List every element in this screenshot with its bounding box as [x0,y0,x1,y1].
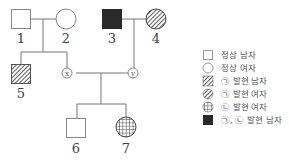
legend-label-trait-ab-male: ㉠, ㉡ 발현 남자 [221,115,282,125]
label-2: 2 [62,31,70,46]
individual-3-trait-ab-male [102,9,122,29]
legend-label-normal-female: 정상 여자 [221,63,256,73]
legend-circle-empty-icon [203,63,213,73]
label-1: 1 [17,31,25,46]
legend-square-hatched-icon [203,76,213,86]
legend-label-trait-a-female: ㉠ 발현 여자 [221,89,267,99]
label-4: 4 [152,31,160,46]
label-6: 6 [72,141,80,156]
label-x: x [65,70,69,78]
pedigree-lines [21,19,146,118]
pedigree-diagram: 1 2 3 4 5 x y 6 7 정상 남자 정상 여자 ㉠ 발현 남자 ㉠ … [0,0,289,160]
label-7: 7 [122,141,130,156]
legend-square-filled-icon [203,115,213,125]
individual-6-normal-male [67,119,86,138]
individual-7-trait-b-female [116,117,136,137]
individual-2-normal-female [56,9,76,29]
label-3: 3 [108,31,116,46]
individual-5-trait-a-male [12,65,31,84]
individual-4-trait-a-female [146,9,166,29]
legend: 정상 남자 정상 여자 ㉠ 발현 남자 ㉠ 발현 여자 ㉡ 발현 여자 ㉠, ㉡… [203,50,282,125]
legend-circle-hatched-icon [203,89,213,99]
individual-1-normal-male [12,10,31,29]
legend-label-normal-male: 정상 남자 [221,50,256,60]
legend-label-trait-b-female: ㉡ 발현 여자 [221,102,267,112]
legend-square-empty-icon [204,51,213,60]
legend-label-trait-a-male: ㉠ 발현 남자 [221,76,267,86]
label-5: 5 [17,86,25,101]
legend-circle-grid-icon [203,102,213,112]
label-y: y [130,70,135,78]
